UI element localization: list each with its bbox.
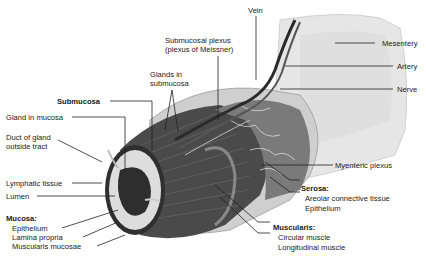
- label-lymphatic-tissue: Lymphatic tissue: [6, 179, 62, 188]
- label-outside-tract: outside tract: [6, 142, 47, 151]
- gi-tract-diagram: Vein Submucosal plexus (plexus of Meissn…: [0, 0, 426, 260]
- label-glands-in-submucosa: Glands in: [150, 70, 182, 79]
- label-mucosa-epithelium: Epithelium: [12, 224, 47, 233]
- label-longitudinal-muscle: Longitudinal muscle: [278, 243, 345, 252]
- label-glands-in-submucosa-2: submucosa: [150, 79, 189, 88]
- label-gland-in-mucosa: Gland in mucosa: [6, 113, 63, 122]
- label-artery: Artery: [397, 62, 417, 71]
- label-serosa-epithelium: Epithelium: [305, 204, 340, 213]
- label-lamina-propria: Lamina propria: [12, 233, 63, 242]
- label-submucosal-plexus: Submucosal plexus: [165, 36, 231, 45]
- label-myenteric-plexus: Myenteric plexus: [335, 161, 392, 170]
- label-circular-muscle: Circular muscle: [278, 233, 330, 242]
- label-muscularis-mucosae: Muscularis mucosae: [12, 242, 81, 251]
- label-mucosa-heading: Mucosa:: [6, 214, 37, 223]
- label-areolar-connective-tissue: Areolar connective tissue: [305, 194, 390, 203]
- label-submucosa: Submucosa: [57, 97, 100, 106]
- label-muscularis-heading: Muscularis:: [273, 223, 315, 232]
- label-submucosal-plexus-alt: (plexus of Meissner): [165, 45, 233, 54]
- label-vein: Vein: [248, 6, 263, 15]
- label-duct-of-gland: Duct of gland: [6, 133, 51, 142]
- label-mesentery: Mesentery: [382, 39, 417, 48]
- label-serosa-heading: Serosa:: [301, 184, 329, 193]
- label-lumen: Lumen: [6, 192, 29, 201]
- label-nerve: Nerve: [397, 85, 417, 94]
